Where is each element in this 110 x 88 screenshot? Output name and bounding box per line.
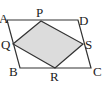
label-c: C	[93, 64, 102, 79]
label-d: D	[79, 13, 88, 28]
label-r: R	[50, 69, 59, 84]
geometry-diagram: A P D Q S B R C	[0, 0, 110, 88]
label-s: S	[85, 37, 92, 52]
label-b: B	[9, 64, 18, 79]
label-p: P	[36, 5, 43, 20]
shaded-quadrilateral-pqrs	[13, 21, 83, 68]
label-q: Q	[1, 37, 11, 52]
label-a: A	[0, 11, 9, 26]
